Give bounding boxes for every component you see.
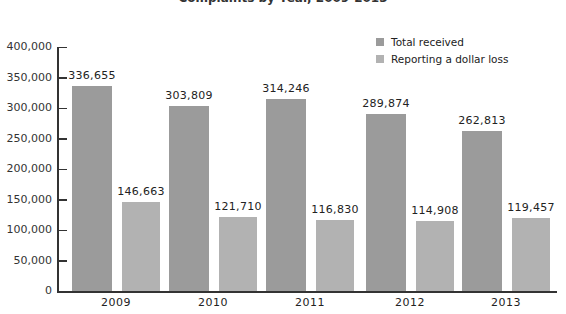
- bar-total-2010: [169, 106, 209, 291]
- y-tick: [57, 138, 67, 140]
- x-tick-label: 2009: [86, 296, 146, 309]
- legend: Total received Reporting a dollar loss: [376, 33, 508, 67]
- bar-value-label: 146,663: [106, 186, 176, 198]
- legend-item-loss: Reporting a dollar loss: [376, 50, 508, 67]
- bar-value-label: 114,908: [400, 205, 470, 217]
- x-tick-label: 2010: [183, 296, 243, 309]
- bar-value-label: 303,809: [154, 90, 224, 102]
- bar-value-label: 336,655: [57, 70, 127, 82]
- bar-value-label: 121,710: [203, 201, 273, 213]
- y-tick-label: 0: [45, 285, 52, 297]
- bar-value-label: 116,830: [300, 204, 370, 216]
- y-tick-label: 200,000: [7, 163, 53, 175]
- x-tick-label: 2013: [476, 296, 536, 309]
- bar-value-label: 262,813: [447, 115, 517, 127]
- bar-loss-2010: [219, 217, 257, 291]
- y-tick: [57, 169, 67, 171]
- y-tick: [57, 230, 67, 232]
- bar-total-2012: [366, 114, 406, 291]
- x-axis: [57, 291, 557, 293]
- y-tick: [57, 199, 67, 201]
- bar-value-label: 119,457: [496, 202, 566, 214]
- bar-loss-2011: [316, 220, 354, 291]
- y-tick: [57, 108, 67, 110]
- bar-total-2011: [266, 99, 306, 291]
- x-tick-label: 2012: [380, 296, 440, 309]
- y-tick-label: 250,000: [7, 133, 53, 145]
- y-tick-label: 100,000: [7, 224, 53, 236]
- legend-label-total: Total received: [391, 36, 464, 48]
- x-tick-label: 2011: [280, 296, 340, 309]
- bar-loss-2012: [416, 221, 454, 291]
- bar-value-label: 314,246: [251, 83, 321, 95]
- bar-loss-2009: [122, 202, 160, 291]
- bar-value-label: 289,874: [351, 98, 421, 110]
- bar-loss-2013: [512, 218, 550, 291]
- legend-label-loss: Reporting a dollar loss: [391, 53, 508, 65]
- legend-item-total: Total received: [376, 33, 508, 50]
- chart-title-cropped: Complaints by Year, 2009-2013: [0, 0, 566, 5]
- y-tick-label: 350,000: [7, 72, 53, 84]
- legend-swatch-total: [376, 38, 384, 46]
- y-tick-label: 50,000: [14, 255, 53, 267]
- y-tick-label: 150,000: [7, 194, 53, 206]
- bar-chart: Complaints by Year, 2009-2013 050,000100…: [0, 0, 566, 314]
- y-tick-label: 300,000: [7, 102, 53, 114]
- y-tick: [57, 260, 67, 262]
- y-tick: [57, 47, 67, 49]
- y-tick-label: 400,000: [7, 41, 53, 53]
- legend-swatch-loss: [376, 55, 384, 63]
